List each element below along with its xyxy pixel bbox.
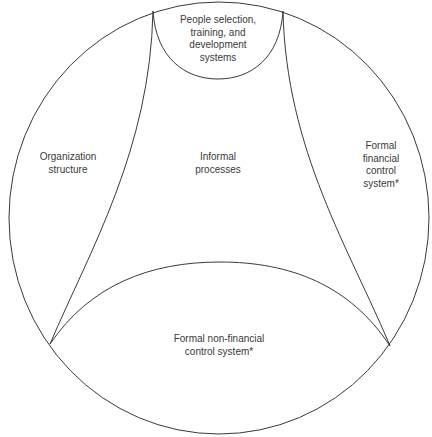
left-divider-curve xyxy=(50,11,153,344)
label-line: People selection, xyxy=(180,14,256,27)
label-line: Informal xyxy=(195,151,241,164)
label-line: development xyxy=(180,39,256,52)
label-formal-nonfinancial-control: Formal non-financial control system* xyxy=(174,333,265,358)
label-people-systems: People selection, training, and developm… xyxy=(180,14,256,64)
label-line: Formal non-financial xyxy=(174,333,265,346)
label-line: Organization xyxy=(40,151,97,164)
label-line: structure xyxy=(40,164,97,177)
diagram-canvas xyxy=(0,0,432,437)
outer-circle xyxy=(9,2,429,434)
label-formal-financial-control: Formal financial control system* xyxy=(363,140,400,190)
label-line: financial xyxy=(363,153,400,166)
label-line: processes xyxy=(195,164,241,177)
label-line: control system* xyxy=(174,346,265,359)
label-organization-structure: Organization structure xyxy=(40,151,97,176)
label-informal-processes: Informal processes xyxy=(195,151,241,176)
label-line: training, and xyxy=(180,27,256,40)
label-line: Formal xyxy=(363,140,400,153)
label-line: system* xyxy=(363,178,400,191)
label-line: control xyxy=(363,165,400,178)
label-line: systems xyxy=(180,52,256,65)
